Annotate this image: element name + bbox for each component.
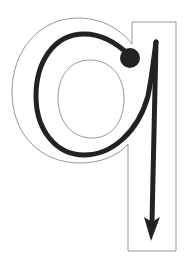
letter-counter-outline [58,60,124,138]
start-dot-icon [120,48,140,68]
letter-q-tracing-worksheet: q [0,0,190,267]
letter-q-figure [0,0,190,267]
